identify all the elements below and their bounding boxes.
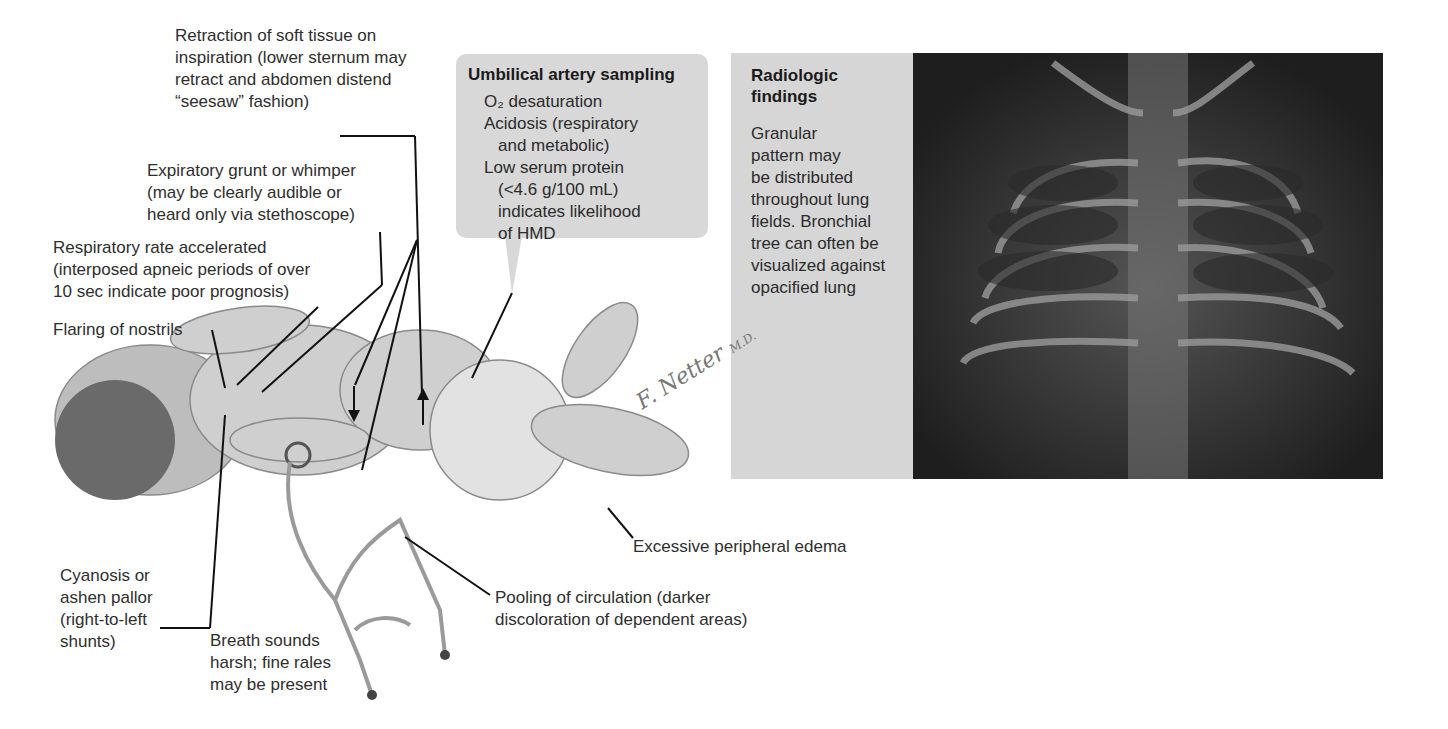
label-respiratory-rate: Respiratory rate accelerated (interposed… [53, 237, 310, 303]
label-peripheral-edema: Excessive peripheral edema [633, 536, 847, 558]
label-cyanosis: Cyanosis or ashen pallor (right-to-left … [60, 565, 153, 653]
chest-xray-image [913, 53, 1383, 479]
umbilical-title: Umbilical artery sampling [468, 64, 708, 85]
label-breath-sounds: Breath sounds harsh; fine rales may be p… [210, 630, 331, 696]
label-flaring-nostrils: Flaring of nostrils [53, 319, 182, 341]
radiologic-findings-panel: Radiologic findings Granular pattern may… [731, 53, 915, 479]
label-retraction: Retraction of soft tissue on inspiration… [175, 25, 406, 113]
umbilical-sampling-callout: Umbilical artery sampling O₂ desaturatio… [456, 54, 708, 238]
label-pooling-circulation: Pooling of circulation (darker discolora… [495, 587, 747, 631]
label-expiratory-grunt: Expiratory grunt or whimper (may be clea… [147, 160, 356, 226]
